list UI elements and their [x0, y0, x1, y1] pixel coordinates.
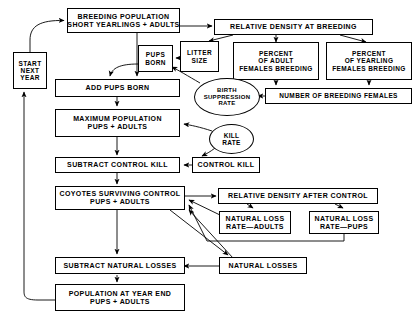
- node-litter-size[interactable]: LITTER SIZE: [180, 41, 219, 72]
- node-line: SUBTRACT CONTROL KILL: [67, 161, 168, 169]
- node-line: LITTER: [187, 49, 212, 56]
- node-line: FEMALES BREEDING: [332, 65, 406, 72]
- edge-density-after-to-nl-pups: [335, 204, 343, 208]
- node-line: CONTROL KILL: [198, 161, 255, 169]
- edge-density-after-to-nl-adults: [247, 204, 253, 208]
- edge-start-to-breeding: [30, 20, 64, 52]
- node-line: SUBTRACT NATURAL LOSSES: [63, 262, 176, 270]
- node-natural-loss-rate-pups[interactable]: NATURAL LOSS RATE—PUPS: [309, 211, 379, 234]
- node-line: MAXIMUM POPULATION: [73, 115, 162, 123]
- node-percent-adult-females[interactable]: PERCENT OF ADULT FEMALES BREEDING: [233, 42, 319, 80]
- node-line: RATE—ADULTS: [226, 223, 284, 231]
- edge-killrate-to-maxpop: [184, 124, 212, 131]
- node-line: SUPPRESSION: [204, 94, 251, 101]
- node-line: PERCENT: [352, 50, 386, 57]
- edge-year-end-to-start: [24, 92, 55, 300]
- node-relative-density-at-breeding[interactable]: RELATIVE DENSITY AT BREEDING: [214, 19, 373, 35]
- node-line: BORN: [145, 59, 166, 66]
- node-line: START: [18, 60, 41, 67]
- node-line: OF ADULT: [258, 57, 293, 64]
- edge-nl-adults-to-coyotes: [189, 200, 220, 215]
- node-line: COYOTES SURVIVING CONTROL: [59, 190, 180, 198]
- node-line: NUMBER OF BREEDING FEMALES: [279, 92, 398, 99]
- node-line: PERCENT: [259, 50, 293, 57]
- node-line: PUPS: [146, 51, 165, 58]
- node-birth-suppression-rate[interactable]: BIRTH SUPPRESSION RATE: [194, 78, 260, 116]
- flowchart-diagram: START NEXT YEAR BREEDING POPULATION SHOR…: [0, 0, 416, 317]
- node-natural-losses[interactable]: NATURAL LOSSES: [219, 257, 307, 274]
- node-line: OF YEARLING: [345, 57, 394, 64]
- node-line: RELATIVE DENSITY AFTER CONTROL: [228, 192, 368, 200]
- node-natural-loss-rate-adults[interactable]: NATURAL LOSS RATE—ADULTS: [219, 211, 291, 234]
- node-line: POPULATION AT YEAR END: [69, 290, 172, 298]
- node-number-of-breeding-females[interactable]: NUMBER OF BREEDING FEMALES: [265, 88, 412, 104]
- node-line: SHORT YEARLINGS + ADULTS: [67, 21, 179, 29]
- node-line: NATURAL LOSS: [315, 215, 374, 223]
- node-population-at-year-end[interactable]: POPULATION AT YEAR END PUPS + ADULTS: [55, 284, 185, 311]
- node-line: BREEDING POPULATION: [78, 13, 170, 21]
- node-line: FEMALES BREEDING: [239, 65, 313, 72]
- node-kill-rate[interactable]: KILL RATE: [209, 124, 254, 154]
- node-breeding-population[interactable]: BREEDING POPULATION SHORT YEARLINGS + AD…: [67, 8, 180, 33]
- node-maximum-population[interactable]: MAXIMUM POPULATION PUPS + ADULTS: [55, 109, 180, 137]
- node-control-kill[interactable]: CONTROL KILL: [192, 157, 260, 173]
- node-line: RATE: [218, 100, 235, 107]
- node-line: PUPS + ADULTS: [88, 123, 148, 131]
- node-line: BIRTH: [217, 87, 237, 94]
- node-line: NATURAL LOSS: [226, 215, 285, 223]
- node-line: SIZE: [191, 57, 207, 64]
- node-line: YEAR: [20, 74, 40, 81]
- node-relative-density-after-control[interactable]: RELATIVE DENSITY AFTER CONTROL: [218, 188, 378, 204]
- node-subtract-control-kill[interactable]: SUBTRACT CONTROL KILL: [55, 157, 180, 173]
- edge-pups-to-addpups: [110, 64, 138, 76]
- node-line: PUPS + ADULTS: [90, 198, 150, 206]
- node-line: RELATIVE DENSITY AT BREEDING: [230, 23, 357, 31]
- node-start-next-year[interactable]: START NEXT YEAR: [13, 52, 47, 89]
- node-line: PUPS + ADULTS: [90, 298, 150, 306]
- node-add-pups-born[interactable]: ADD PUPS BORN: [55, 79, 180, 97]
- node-line: RATE: [222, 139, 240, 146]
- node-percent-yearling-females[interactable]: PERCENT OF YEARLING FEMALES BREEDING: [326, 42, 412, 80]
- node-line: ADD PUPS BORN: [86, 84, 150, 92]
- node-line: RATE—PUPS: [320, 223, 368, 231]
- node-pups-born[interactable]: PUPS BORN: [138, 45, 173, 72]
- node-coyotes-surviving-control[interactable]: COYOTES SURVIVING CONTROL PUPS + ADULTS: [55, 186, 185, 210]
- node-line: KILL: [224, 132, 240, 139]
- node-line: NEXT: [21, 67, 40, 74]
- edge-density-to-pct-yearling: [340, 35, 366, 42]
- node-line: NATURAL LOSSES: [228, 262, 297, 270]
- node-subtract-natural-losses[interactable]: SUBTRACT NATURAL LOSSES: [55, 257, 185, 274]
- edge-killrate-to-controlkill: [202, 148, 215, 156]
